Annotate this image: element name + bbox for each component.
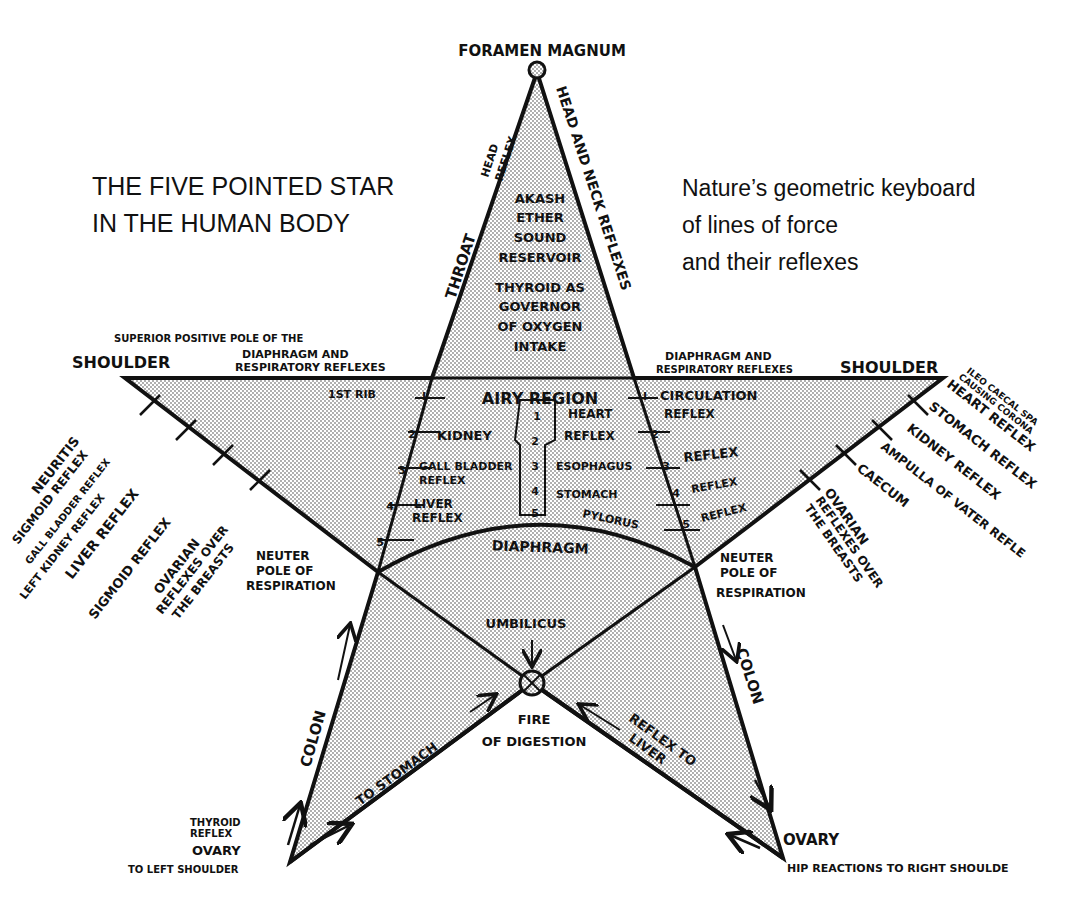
thyroid-reflex-label: REFLEX: [190, 828, 233, 839]
svg-text:NEUTER: NEUTER: [256, 549, 310, 563]
svg-text:ETHER: ETHER: [516, 210, 564, 225]
svg-text:RESPIRATION: RESPIRATION: [246, 579, 336, 593]
circulation-label: CIRCULATION: [660, 388, 757, 403]
neuter-right: NEUTER POLE OF RESPIRATION: [716, 551, 806, 600]
svg-text:RESPIRATION: RESPIRATION: [716, 586, 806, 600]
svg-text:4: 4: [386, 500, 394, 513]
svg-text:KIDNEY REFLEX: KIDNEY REFLEX: [904, 421, 1003, 503]
svg-text:4: 4: [531, 485, 539, 498]
first-rib-label: 1ST RIB: [328, 388, 376, 401]
umbilicus-icon: [520, 671, 544, 695]
umbilicus-label: UMBILICUS: [486, 616, 567, 631]
svg-text:5: 5: [531, 507, 539, 520]
hip-reactions-label: HIP REACTIONS TO RIGHT SHOULDE: [787, 862, 1009, 875]
svg-text:THYROID AS: THYROID AS: [495, 280, 585, 295]
fire-label: FIRE: [518, 712, 551, 727]
svg-text:2: 2: [651, 428, 659, 441]
thyroid-label: THYROID: [190, 817, 241, 828]
svg-text:POLE OF: POLE OF: [256, 564, 313, 578]
right-shoulder-label: SHOULDER: [840, 358, 938, 377]
svg-text:3: 3: [531, 460, 539, 473]
left-shoulder-note-2: DIAPHRAGM AND: [242, 348, 349, 361]
to-left-shoulder-label: TO LEFT SHOULDER: [128, 864, 239, 875]
left-ovary-label: OVARY: [192, 843, 241, 858]
stomach-label: STOMACH: [556, 488, 618, 501]
star-diagram-page: THE FIVE POINTED STAR IN THE HUMAN BODY …: [0, 0, 1067, 923]
right-shoulder-note-2: RESPIRATORY REFLEXES: [656, 364, 793, 375]
svg-text:I: I: [422, 390, 426, 403]
digestion-label: OF DIGESTION: [482, 734, 587, 749]
right-shoulder-note-1: DIAPHRAGM AND: [665, 350, 772, 363]
foramen-magnum-icon: [529, 62, 545, 78]
svg-text:GOVERNOR: GOVERNOR: [499, 299, 581, 314]
foramen-magnum-label: FORAMEN MAGNUM: [458, 42, 626, 60]
left-arm-outer-labels: NEURITIS SIGMOID REFLEX GALL BLADDER REF…: [9, 434, 237, 622]
heart-reflex-label: REFLEX: [564, 429, 615, 443]
svg-text:5: 5: [682, 518, 690, 531]
svg-text:5: 5: [376, 536, 384, 549]
gall-bladder-label: GALL BLADDER: [419, 460, 513, 473]
svg-text:AKASH: AKASH: [515, 191, 565, 206]
svg-text:OF OXYGEN: OF OXYGEN: [498, 319, 583, 334]
svg-text:SOUND: SOUND: [514, 230, 567, 245]
svg-text:I: I: [643, 390, 647, 403]
kidney-label: KIDNEY: [437, 428, 492, 443]
airy-region-label: AIRY REGION: [482, 389, 598, 408]
neuter-left: NEUTER POLE OF RESPIRATION: [246, 549, 336, 593]
svg-text:3: 3: [398, 464, 406, 477]
left-shoulder-label: SHOULDER: [72, 353, 170, 372]
svg-text:RESERVOIR: RESERVOIR: [499, 250, 582, 265]
star-figure: FORAMEN MAGNUM THROAT HEAD REFLEX HEAD A…: [0, 0, 1067, 923]
circulation-reflex-label: REFLEX: [664, 407, 715, 421]
svg-text:4: 4: [672, 487, 680, 500]
right-ovary-label: OVARY: [783, 831, 840, 849]
heart-label: HEART: [568, 407, 613, 421]
gall-bladder-reflex-label: REFLEX: [419, 474, 466, 487]
left-shoulder-note-1: SUPERIOR POSITIVE POLE OF THE: [114, 333, 303, 344]
svg-text:NEUTER: NEUTER: [720, 551, 774, 565]
svg-text:INTAKE: INTAKE: [514, 339, 567, 354]
left-shoulder-note-3: RESPIRATORY REFLEXES: [235, 361, 386, 374]
esophagus-label: ESOPHAGUS: [556, 460, 633, 473]
svg-text:1: 1: [533, 410, 541, 423]
liver-label: LIVER: [414, 497, 453, 511]
colon-right-label: COLON: [732, 646, 767, 707]
diaphragm-label: DIAPHRAGM: [492, 537, 589, 556]
liver-reflex-label: REFLEX: [412, 511, 463, 525]
svg-text:2: 2: [531, 435, 539, 448]
svg-text:POLE OF: POLE OF: [720, 566, 777, 580]
svg-text:2: 2: [408, 428, 416, 441]
svg-text:3: 3: [662, 460, 670, 473]
